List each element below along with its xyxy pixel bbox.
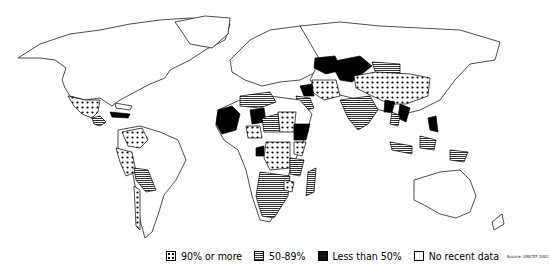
south-america	[116, 126, 186, 238]
legend-item-none: No recent data	[414, 250, 499, 262]
north-america	[18, 16, 230, 126]
legend-item-low: Less than 50%	[318, 250, 402, 262]
legend-label-mid: 50-89%	[269, 250, 305, 262]
empty-swatch-icon	[414, 251, 424, 261]
legend-label-high: 90% or more	[181, 250, 242, 262]
lines-pattern-swatch-icon	[254, 251, 264, 261]
dots-pattern-swatch-icon	[166, 251, 176, 261]
legend-item-mid: 50-89%	[254, 250, 305, 262]
asia	[296, 22, 500, 162]
oceania	[414, 170, 504, 230]
legend-label-low: Less than 50%	[333, 250, 402, 262]
map-legend: 90% or more 50-89% Less than 50% No rece…	[166, 248, 549, 264]
legend-item-high: 90% or more	[166, 250, 242, 262]
solid-swatch-icon	[318, 251, 328, 261]
world-map	[0, 0, 522, 245]
source-note: Source: UNICEF 2001	[507, 254, 549, 259]
africa	[216, 92, 316, 222]
legend-label-none: No recent data	[429, 250, 499, 262]
